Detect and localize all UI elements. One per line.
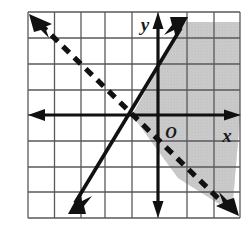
- graph-canvas: y x O: [0, 0, 252, 230]
- y-axis-label: y: [139, 14, 150, 35]
- origin-label: O: [165, 124, 177, 141]
- x-axis-label: x: [221, 125, 232, 146]
- coordinate-plane-figure: y x O: [0, 0, 252, 230]
